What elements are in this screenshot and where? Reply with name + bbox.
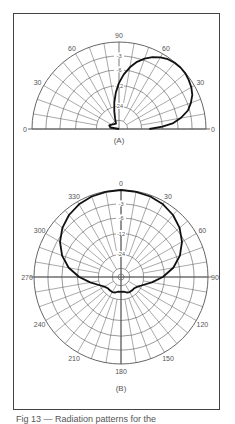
grid-spoke xyxy=(106,299,117,362)
grid-spoke xyxy=(125,191,136,254)
angle-label: 240 xyxy=(34,321,46,328)
grid-spoke xyxy=(125,299,136,362)
ring-db-label: -3 xyxy=(117,53,122,59)
grid-spoke xyxy=(89,47,111,107)
angle-label: 210 xyxy=(68,355,80,362)
ring-db-label: -24 xyxy=(117,251,125,257)
figure-caption: Fig 13 — Radiation patterns for the xyxy=(16,414,156,424)
angle-label: 180 xyxy=(115,368,127,375)
grid-spoke xyxy=(129,298,151,358)
elevation-pattern-chart: 030609060300-3-6-12-24(A) xyxy=(23,32,215,145)
angle-label: 0 xyxy=(23,126,27,133)
grid-spoke xyxy=(91,298,113,358)
grid-spoke xyxy=(127,47,149,107)
grid-spoke xyxy=(106,191,117,254)
angle-label: 0 xyxy=(211,126,215,133)
ring-db-label: -6 xyxy=(119,215,124,221)
ring-db-label: -6 xyxy=(117,67,122,73)
angle-label: 60 xyxy=(198,227,206,234)
angle-label: 30 xyxy=(164,193,172,200)
azimuth-pattern-chart: 0306090120150180210240270300330-3-6-12-2… xyxy=(21,180,219,393)
grid-spoke xyxy=(33,114,96,125)
grid-spoke xyxy=(104,43,115,106)
angle-label: 150 xyxy=(162,355,174,362)
grid-spoke xyxy=(39,285,99,307)
angle-label: 120 xyxy=(197,321,209,328)
angle-label: 60 xyxy=(162,45,170,52)
angle-label: 90 xyxy=(115,32,123,39)
panel-label: (A) xyxy=(114,136,125,145)
panel-label: (B) xyxy=(116,384,127,393)
ring-db-label: -3 xyxy=(119,201,124,207)
angle-label: 30 xyxy=(34,79,42,86)
angle-label: 0 xyxy=(119,180,123,187)
grid-spoke xyxy=(142,247,202,269)
angle-label: 60 xyxy=(68,45,76,52)
angle-label: 330 xyxy=(68,193,80,200)
ring-db-label: -24 xyxy=(115,103,123,109)
grid-spoke xyxy=(39,247,99,269)
grid-spoke xyxy=(123,43,134,106)
angle-label: 90 xyxy=(211,274,219,281)
grid-spoke xyxy=(37,99,97,121)
angle-label: 300 xyxy=(34,227,46,234)
ring-db-label: -12 xyxy=(117,231,125,237)
angle-label: 30 xyxy=(196,79,204,86)
grid-spoke xyxy=(142,285,202,307)
grid-spoke xyxy=(91,195,113,255)
angle-label: 270 xyxy=(21,274,33,281)
grid-spoke xyxy=(129,195,151,255)
